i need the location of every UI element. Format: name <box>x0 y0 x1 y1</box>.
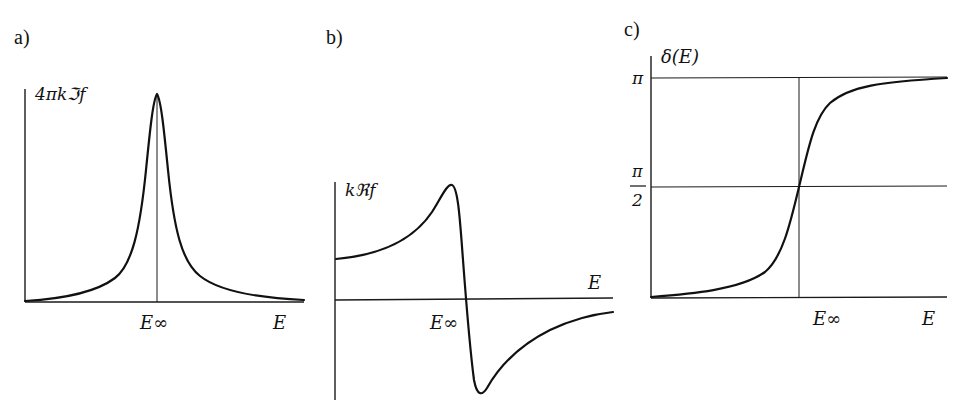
panel-b: b) kℜf E E∞ <box>326 26 613 400</box>
panel-c: c) δ(E) π π 2 E∞ E <box>624 18 947 329</box>
panel-c-x-marker-label: E∞ <box>812 308 841 329</box>
panel-c-label: c) <box>624 18 640 41</box>
panel-a-lorentzian-curve <box>25 94 304 301</box>
panel-b-x-label: E <box>587 272 601 293</box>
panel-b-label: b) <box>326 26 343 49</box>
panel-c-ytick-half-numerator: π <box>631 162 643 181</box>
figure: a) 4πkℑf E∞ E b) kℜf E E∞ c) δ(E) π π 2 … <box>0 0 966 419</box>
panel-b-y-label: kℜf <box>345 180 378 200</box>
panel-a-label: a) <box>14 26 30 49</box>
panel-a-x-label: E <box>272 312 286 333</box>
panel-b-x-marker-label: E∞ <box>429 312 458 333</box>
panel-a: a) 4πkℑf E∞ E <box>14 26 304 333</box>
panel-c-ytick-pi: π <box>631 68 644 88</box>
panel-b-x-axis <box>335 298 613 300</box>
panel-a-x-marker-label: E∞ <box>139 312 168 333</box>
panel-c-ytick-half-denominator: 2 <box>631 190 643 210</box>
panel-a-y-label: 4πkℑf <box>34 84 88 104</box>
panel-c-y-label: δ(E) <box>661 46 699 67</box>
panel-b-dispersion-curve <box>336 185 613 393</box>
panel-c-x-label: E <box>921 308 935 329</box>
